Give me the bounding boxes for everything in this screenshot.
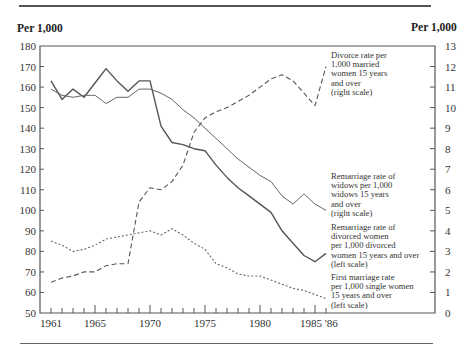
bottom-rule: [20, 343, 433, 344]
right-axis-tick-label: 2: [445, 266, 451, 278]
divorce-rate-annotation: Divorce rate per1,000 marriedwomen 15 ye…: [331, 50, 388, 97]
right-axis-tick-label: 7: [445, 163, 451, 175]
right-axis-tick-label: 9: [445, 122, 451, 134]
annotation-line: (left scale): [331, 259, 368, 269]
divorce-rate-line: [51, 67, 326, 283]
left-axis-tick-label: 60: [25, 286, 37, 298]
right-axis-tick-label: 5: [445, 204, 451, 216]
x-axis-tick-label: 1970: [139, 317, 162, 329]
left-axis-tick-label: 140: [20, 122, 37, 134]
right-axis-tick-label: 0: [445, 307, 451, 319]
annotation-line: (left scale): [331, 300, 368, 310]
widows-remarriage-annotation: Remarriage rate ofwidows per 1,000widows…: [331, 171, 396, 218]
line-chart: 1801701601501401301201101009080706050131…: [0, 0, 469, 351]
left-axis-tick-label: 70: [25, 266, 37, 278]
right-axis-tick-label: 6: [445, 184, 451, 196]
annotation-line: (right scale): [331, 208, 372, 218]
right-axis-tick-label: 8: [445, 143, 451, 155]
left-axis-tick-label: 100: [20, 204, 37, 216]
left-axis-tick-label: 130: [20, 143, 37, 155]
left-axis-tick-label: 160: [20, 81, 37, 93]
divorced-remarriage-annotation: Remarriage rate ofdivorced womenper 1,00…: [331, 222, 419, 269]
left-axis-tick-label: 170: [20, 61, 37, 73]
right-axis-tick-label: 13: [445, 40, 457, 52]
left-axis-tick-label: 90: [25, 225, 37, 237]
annotation-line: (right scale): [331, 87, 372, 97]
x-axis-tick-label: 1980: [249, 317, 272, 329]
left-axis-tick-label: 150: [20, 102, 37, 114]
right-axis-tick-label: 12: [445, 61, 456, 73]
x-axis-tick-label: 1965: [84, 317, 107, 329]
right-axis-tick-label: 4: [445, 225, 451, 237]
x-axis-tick-label: 1961: [40, 317, 62, 329]
left-axis-tick-label: 180: [20, 40, 37, 52]
right-axis-tick-label: 3: [445, 245, 451, 257]
x-axis-tick-label: 1985 '86: [300, 317, 338, 329]
divorced-remarriage-line: [51, 69, 326, 262]
left-axis-tick-label: 80: [25, 245, 37, 257]
first-marriage-annotation: First marriage rateper 1,000 single wome…: [331, 272, 414, 310]
widows-remarriage-line: [51, 89, 326, 210]
right-axis-tick-label: 10: [445, 102, 457, 114]
first-marriage-line: [51, 229, 326, 299]
left-axis-tick-label: 110: [20, 184, 37, 196]
right-axis-tick-label: 1: [445, 286, 451, 298]
right-axis-tick-label: 11: [445, 81, 456, 93]
left-axis-tick-label: 50: [25, 307, 37, 319]
x-axis-tick-label: 1975: [194, 317, 217, 329]
left-axis-tick-label: 120: [20, 163, 37, 175]
